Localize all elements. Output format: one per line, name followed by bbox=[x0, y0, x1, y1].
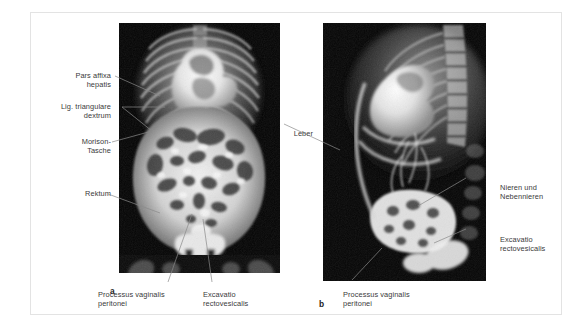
label-rektum: Rektum bbox=[31, 189, 111, 198]
label-excavatio-rectovesicalis-b: Excavatio rectovesicalis bbox=[500, 235, 576, 254]
label-pars-affixa-hepatis: Pars affixa hepatis bbox=[31, 71, 111, 90]
label-morison-tasche: Morison- Tasche bbox=[31, 137, 111, 156]
panel-letter-b: b bbox=[319, 299, 324, 309]
label-processus-vaginalis-peritonei-b: Processus vaginalis peritonei bbox=[343, 290, 443, 309]
label-leber: Leber bbox=[253, 129, 313, 138]
label-nieren-und-nebennieren: Nieren und Nebennieren bbox=[500, 183, 576, 202]
radiograph-panel-a bbox=[119, 23, 280, 273]
radiograph-panel-b bbox=[323, 23, 486, 281]
figure-frame: a b Pars affixa hepatis Lig. triangulare… bbox=[30, 12, 562, 315]
label-lig-triangulare-dextrum: Lig. triangulare dextrum bbox=[23, 102, 111, 121]
label-processus-vaginalis-peritonei-a: Processus vaginalis peritonei bbox=[98, 290, 198, 309]
label-excavatio-rectovesicalis-a: Excavatio rectovesicalis bbox=[203, 290, 293, 309]
